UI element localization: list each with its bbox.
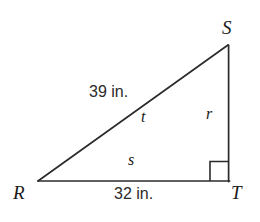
measurement-hypotenuse: 39 in. xyxy=(89,84,128,100)
side-label-r: r xyxy=(206,106,212,122)
geometry-diagram: S R T t r s 39 in. 32 in. xyxy=(0,0,260,222)
right-angle-square-icon xyxy=(210,162,229,182)
side-label-s: s xyxy=(128,152,134,168)
measurement-base: 32 in. xyxy=(114,186,153,202)
vertex-label-r: R xyxy=(13,183,25,202)
vertex-label-t: T xyxy=(231,183,242,202)
vertex-label-s: S xyxy=(222,18,232,37)
side-label-t: t xyxy=(141,109,145,125)
